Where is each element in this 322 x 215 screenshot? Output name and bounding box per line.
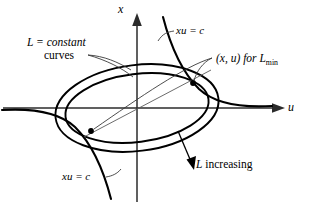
tangency-point-label-subscript: min — [266, 58, 278, 67]
level-curves-label-line1: L = constant — [27, 36, 86, 48]
increasing-direction-symbol: L — [196, 158, 202, 170]
tangency-point-label-main: (x, u) for L — [216, 52, 266, 64]
x-axis-label: x — [118, 3, 123, 16]
x-axis-arrowhead — [132, 13, 142, 26]
leader-lines-group — [88, 31, 212, 177]
leader-constraint-bottom — [106, 169, 121, 177]
level-curve-diagram: x u xu = c xu = c L = constant curves (x… — [0, 0, 322, 215]
tangency-point-lower — [88, 128, 94, 134]
u-axis-arrowhead — [272, 103, 285, 113]
leader-constraint-top — [158, 31, 174, 41]
increasing-direction-word: increasing — [205, 158, 252, 170]
constraint-label-bottom: xu = c — [62, 170, 90, 182]
u-axis-label: u — [288, 101, 294, 114]
level-curves-label: L = constant curves — [27, 36, 86, 62]
increasing-direction-label: L increasing — [196, 158, 253, 171]
tangency-point-upper — [190, 80, 196, 86]
constraint-label-top: xu = c — [176, 24, 204, 36]
level-curves-label-line2: curves — [27, 49, 86, 62]
diagram-canvas — [0, 0, 322, 215]
increasing-arrow-head — [187, 156, 197, 170]
tangency-point-label: (x, u) for Lmin — [216, 52, 278, 68]
